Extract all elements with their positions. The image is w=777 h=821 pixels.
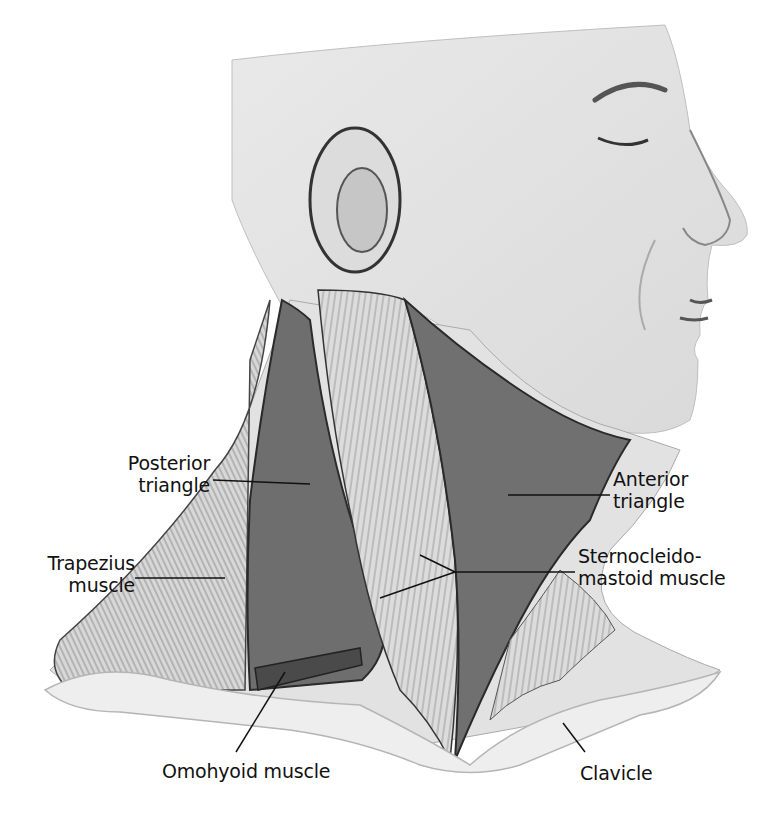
neck-illustration — [0, 0, 777, 821]
label-line: Omohyoid muscle — [162, 760, 330, 782]
label-omohyoid-muscle: Omohyoid muscle — [162, 760, 330, 782]
label-anterior-triangle: Anterior triangle — [613, 468, 688, 512]
anatomy-figure: Posterior triangle Trapezius muscle Ante… — [0, 0, 777, 821]
label-line: Clavicle — [580, 762, 653, 784]
label-line: Anterior — [613, 468, 688, 490]
label-posterior-triangle: Posterior triangle — [120, 452, 210, 496]
label-line: Trapezius — [30, 552, 135, 574]
label-line: triangle — [120, 474, 210, 496]
label-line: mastoid muscle — [578, 567, 726, 589]
label-clavicle: Clavicle — [580, 762, 653, 784]
label-sternocleidomastoid-muscle: Sternocleido- mastoid muscle — [578, 545, 726, 589]
label-trapezius-muscle: Trapezius muscle — [30, 552, 135, 596]
label-line: Posterior — [120, 452, 210, 474]
label-line: muscle — [30, 574, 135, 596]
ear-inner — [337, 168, 387, 252]
label-line: Sternocleido- — [578, 545, 726, 567]
label-line: triangle — [613, 490, 688, 512]
